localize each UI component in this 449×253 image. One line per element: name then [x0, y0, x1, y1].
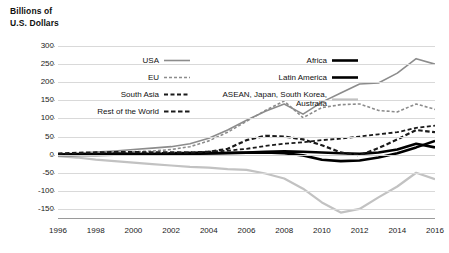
legend-label-eu: EU: [148, 73, 159, 83]
legend-item-africa[interactable]: Africa: [198, 52, 358, 69]
gridline--150: [58, 209, 435, 210]
y-tick-mark-250: [50, 64, 55, 65]
y-tick-mark-300: [50, 46, 55, 47]
chart-legend: USAEUSouth AsiaRest of the World AfricaL…: [60, 52, 350, 118]
x-tick-label-2002: 2002: [153, 226, 189, 235]
y-tick-label-150: 150: [20, 95, 54, 104]
legend-swatch-eu-icon: [164, 73, 190, 82]
legend-swatch-usa-icon: [164, 56, 190, 65]
x-tick-label-2014: 2014: [379, 226, 415, 235]
x-tick-label-2008: 2008: [266, 226, 302, 235]
y-tick-label-200: 200: [20, 77, 54, 86]
legend-swatch-asean-icon: [332, 95, 358, 104]
legend-swatch-rest_of_world-icon: [164, 107, 190, 116]
y-axis-title-line2: U.S. Dollars: [10, 18, 120, 30]
y-tick-label-0: 0: [20, 150, 54, 159]
gridline-50: [58, 137, 435, 138]
legend-item-eu[interactable]: EU: [60, 69, 190, 86]
legend-column-left: USAEUSouth AsiaRest of the World: [60, 52, 190, 120]
x-axis-line: [58, 218, 435, 219]
x-tick-label-2010: 2010: [304, 226, 340, 235]
y-tick-label-50: 50: [20, 132, 54, 141]
y-tick-mark--150: [50, 209, 55, 210]
y-tick-label--150: -150: [20, 204, 54, 213]
legend-item-asean[interactable]: ASEAN, Japan, South Korea, Australia: [198, 86, 358, 112]
x-tick-label-2012: 2012: [342, 226, 378, 235]
legend-column-right: AfricaLatin AmericaASEAN, Japan, South K…: [198, 52, 358, 112]
legend-item-rest_of_world[interactable]: Rest of the World: [60, 103, 190, 120]
x-tick-label-1996: 1996: [40, 226, 76, 235]
y-tick-mark-150: [50, 100, 55, 101]
gridline-300: [58, 46, 435, 47]
y-tick-label-100: 100: [20, 113, 54, 122]
y-tick-mark--100: [50, 191, 55, 192]
y-tick-label--50: -50: [20, 168, 54, 177]
y-tick-mark-50: [50, 137, 55, 138]
y-axis-title: Billions of U.S. Dollars: [10, 6, 120, 29]
legend-swatch-south_asia-icon: [164, 90, 190, 99]
y-tick-label-250: 250: [20, 59, 54, 68]
x-tick-label-2016: 2016: [417, 226, 449, 235]
legend-item-south_asia[interactable]: South Asia: [60, 86, 190, 103]
legend-label-latin_america: Latin America: [279, 73, 327, 83]
y-tick-mark--50: [50, 173, 55, 174]
y-tick-mark-200: [50, 82, 55, 83]
x-tick-label-2000: 2000: [115, 226, 151, 235]
legend-label-south_asia: South Asia: [121, 90, 159, 100]
y-axis-title-line1: Billions of: [10, 6, 120, 18]
y-tick-label--100: -100: [20, 186, 54, 195]
legend-item-usa[interactable]: USA: [60, 52, 190, 69]
gridline-0: [58, 155, 435, 156]
legend-swatch-africa-icon: [332, 56, 358, 65]
y-tick-mark-100: [50, 118, 55, 119]
legend-item-latin_america[interactable]: Latin America: [198, 69, 358, 86]
y-tick-mark-0: [50, 155, 55, 156]
legend-label-rest_of_world: Rest of the World: [97, 107, 159, 117]
x-tick-label-2006: 2006: [229, 226, 265, 235]
gridline--100: [58, 191, 435, 192]
legend-swatch-latin_america-icon: [332, 73, 358, 82]
legend-label-africa: Africa: [307, 56, 327, 66]
legend-label-usa: USA: [143, 56, 159, 66]
x-tick-label-1998: 1998: [78, 226, 114, 235]
y-tick-label-300: 300: [20, 41, 54, 50]
gridline--50: [58, 173, 435, 174]
series-line-asean: [58, 156, 435, 212]
legend-label-asean: ASEAN, Japan, South Korea, Australia: [209, 90, 327, 109]
x-tick-label-2004: 2004: [191, 226, 227, 235]
